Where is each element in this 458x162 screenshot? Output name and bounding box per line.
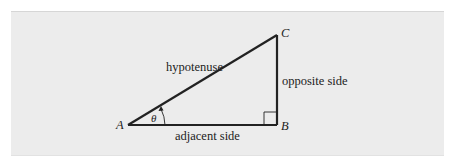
hypotenuse-label: hypotenuse [166,60,223,74]
opposite-side-label: opposite side [282,74,348,88]
angle-theta-label: θ [151,112,157,124]
vertex-b-label: B [281,119,289,133]
right-triangle-diagram: A B C θ hypotenuse opposite side adjacen… [0,0,458,162]
vertex-c-label: C [281,26,290,40]
right-angle-marker [264,112,277,125]
vertex-a-label: A [115,118,124,132]
adjacent-side-label: adjacent side [175,129,240,143]
angle-arc [161,109,165,125]
